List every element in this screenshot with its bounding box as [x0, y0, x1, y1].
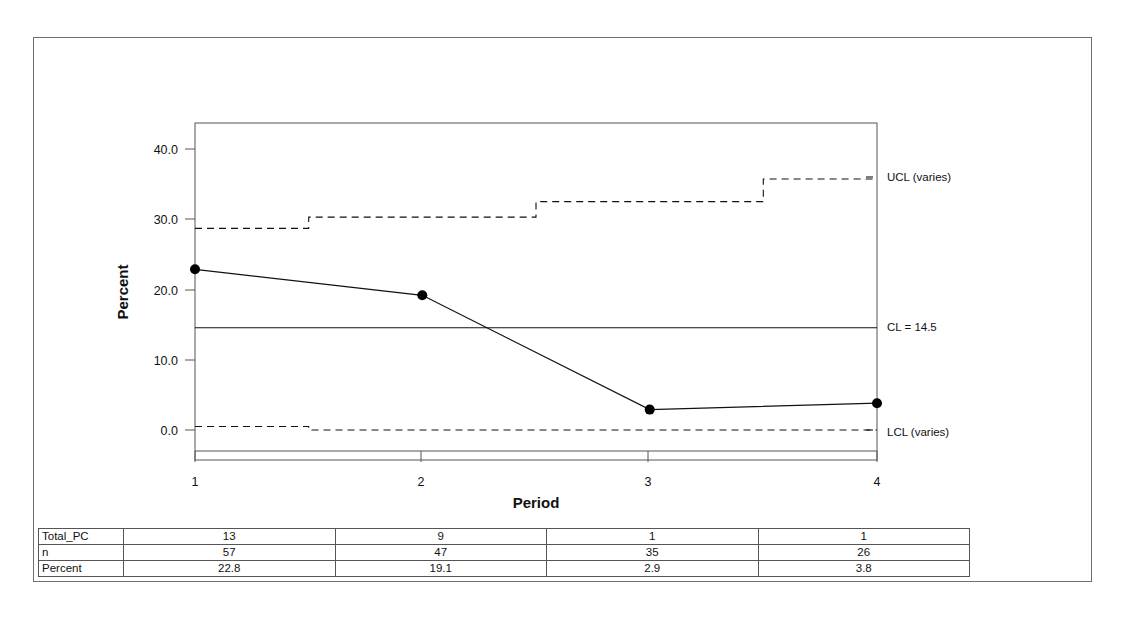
percent-series-markers[interactable]	[190, 264, 882, 414]
y-tick-label-20: 20.0	[154, 284, 178, 298]
data-point-marker[interactable]	[645, 405, 655, 415]
page-root: 40.0 30.0 20.0 10.0 0.0 Percent 1 2 3 4 …	[0, 0, 1129, 628]
table-row-header: n	[39, 545, 124, 561]
x-tick-label-4: 4	[874, 475, 881, 489]
table-cell: 1	[547, 529, 759, 545]
table-cell: 9	[335, 529, 547, 545]
y-axis-ticks	[185, 149, 195, 430]
y-tick-label-40: 40.0	[154, 143, 178, 157]
table-cell: 3.8	[758, 561, 970, 577]
table-cell: 2.9	[547, 561, 759, 577]
table-cell: 1	[758, 529, 970, 545]
y-tick-label-10: 10.0	[154, 354, 178, 368]
ucl-label: UCL (varies)	[887, 171, 951, 183]
limit-label-leaders	[866, 177, 877, 430]
data-point-marker[interactable]	[190, 264, 200, 274]
data-point-marker[interactable]	[417, 290, 427, 300]
percent-series-line	[195, 269, 877, 409]
table-row: n 57 47 35 26	[39, 545, 970, 561]
x-tick-label-3: 3	[645, 475, 652, 489]
y-tick-label-30: 30.0	[154, 213, 178, 227]
table-row-header: Total_PC	[39, 529, 124, 545]
cl-label: CL = 14.5	[887, 321, 937, 333]
y-tick-label-0: 0.0	[161, 424, 178, 438]
table-row: Total_PC 13 9 1 1	[39, 529, 970, 545]
table-row: Percent 22.8 19.1 2.9 3.8	[39, 561, 970, 577]
table-cell: 22.8	[124, 561, 336, 577]
table-cell: 35	[547, 545, 759, 561]
x-tick-label-2: 2	[418, 475, 425, 489]
table-row-header: Percent	[39, 561, 124, 577]
table-cell: 57	[124, 545, 336, 561]
table-cell: 26	[758, 545, 970, 561]
table-cell: 19.1	[335, 561, 547, 577]
data-point-marker[interactable]	[872, 398, 882, 408]
summary-table: Total_PC 13 9 1 1 n 57 47 35 26 Percent …	[38, 528, 970, 577]
lcl-label: LCL (varies)	[887, 426, 949, 438]
x-axis-title: Period	[513, 494, 560, 511]
table-cell: 47	[335, 545, 547, 561]
plot-frame	[195, 123, 877, 460]
lcl-step-line	[195, 427, 877, 431]
y-axis-title: Percent	[114, 264, 131, 319]
table-cell: 13	[124, 529, 336, 545]
x-tick-label-1: 1	[192, 475, 199, 489]
ucl-step-line	[195, 179, 877, 228]
